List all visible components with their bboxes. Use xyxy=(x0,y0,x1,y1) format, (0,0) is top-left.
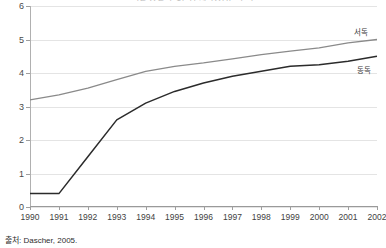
series-line-west xyxy=(30,40,377,100)
x-axis-label: 1990 xyxy=(21,212,40,222)
x-axis-label: 1999 xyxy=(281,212,300,222)
y-axis-label: 0 xyxy=(19,202,24,212)
x-axis-label: 2000 xyxy=(310,212,329,222)
x-axis-label: 1996 xyxy=(194,212,213,222)
series-line-east xyxy=(30,56,377,193)
legend-label-west: 서독 xyxy=(354,26,368,37)
x-axis-tick xyxy=(377,206,378,210)
x-axis-label: 2002 xyxy=(368,212,386,222)
y-axis-label: 2 xyxy=(19,135,24,145)
y-axis-label: 4 xyxy=(19,68,24,78)
chart-title: 독일 통일 후 1인당 지역총생산 추이 xyxy=(0,0,385,1)
x-axis-label: 1992 xyxy=(78,212,97,222)
x-axis-label: 1998 xyxy=(252,212,271,222)
x-axis-label: 1991 xyxy=(49,212,68,222)
legend-label-east: 동독 xyxy=(357,64,371,75)
y-axis-label: 5 xyxy=(19,35,24,45)
x-axis-label: 1997 xyxy=(223,212,242,222)
y-axis-label: 1 xyxy=(19,169,24,179)
x-axis-label: 1993 xyxy=(107,212,126,222)
y-axis-label: 6 xyxy=(19,1,24,11)
series-lines xyxy=(30,6,377,207)
x-axis-label: 1995 xyxy=(165,212,184,222)
source-note: 출처: Dascher, 2005. xyxy=(5,234,77,245)
x-axis-label: 1994 xyxy=(136,212,155,222)
x-axis-label: 2001 xyxy=(339,212,358,222)
y-axis-label: 3 xyxy=(19,102,24,112)
